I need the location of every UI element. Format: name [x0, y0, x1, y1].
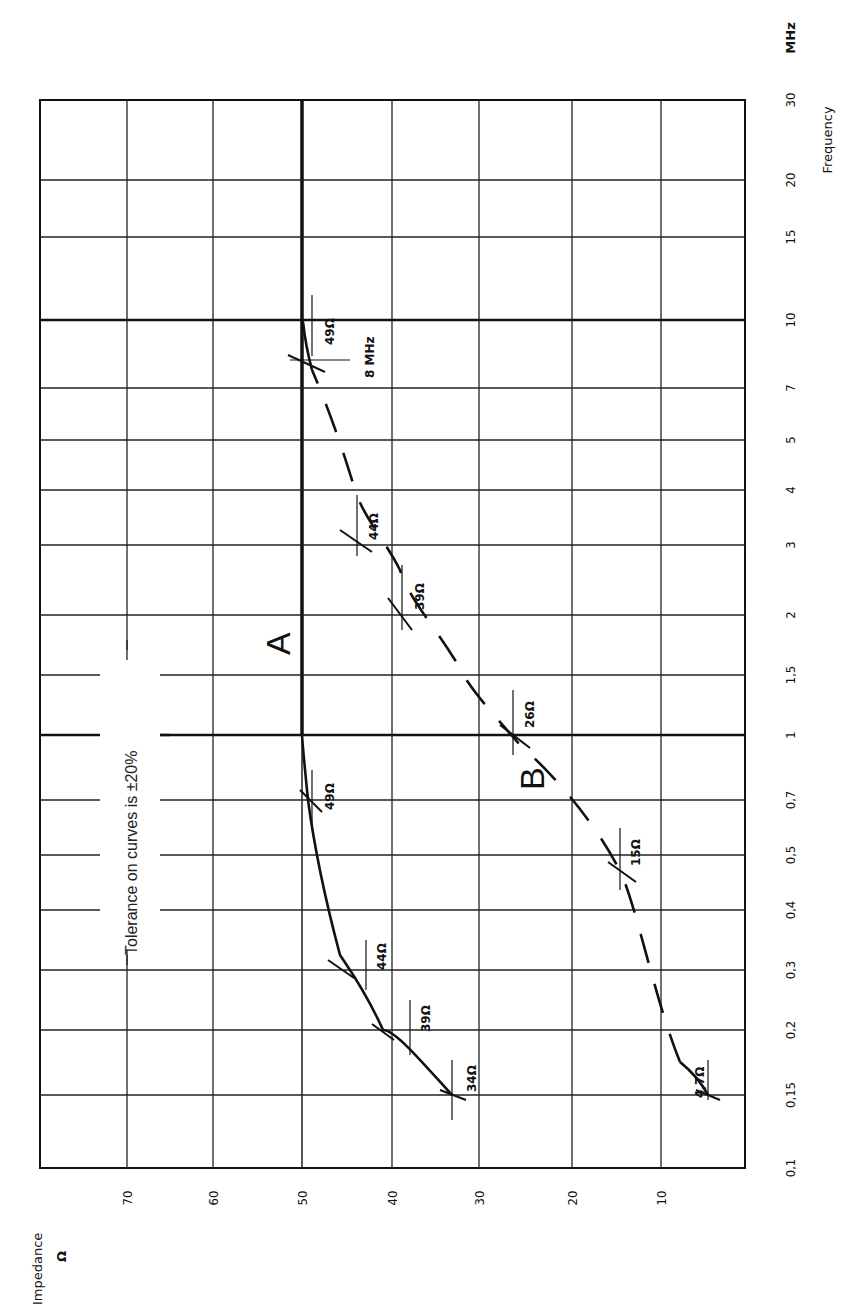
svg-text:10: 10 [783, 313, 798, 328]
svg-text:20: 20 [565, 1191, 580, 1206]
svg-text:15: 15 [783, 230, 798, 245]
label-b-47: 4,7Ω [693, 1067, 707, 1098]
label-a-39: 39Ω [419, 1005, 433, 1032]
svg-text:1: 1 [783, 731, 798, 738]
impedance-tick-labels: 70 60 50 40 30 20 10 [120, 1191, 669, 1206]
frequency-axis-title: Frequency [820, 106, 835, 173]
svg-text:60: 60 [206, 1191, 221, 1206]
impedance-axis-title: Impedance [30, 1233, 45, 1305]
impedance-axis-unit: Ω [54, 1251, 69, 1262]
impedance-gridlines [127, 100, 661, 1168]
frequency-tick-labels: 0,1 0,15 0,2 0,3 0,4 0,5 0,7 1 1,5 2 3 4… [783, 93, 798, 1178]
svg-text:30: 30 [472, 1191, 487, 1206]
svg-text:5: 5 [783, 436, 798, 443]
label-b-49: 49Ω [323, 318, 337, 345]
label-bars [290, 295, 708, 1120]
svg-text:4: 4 [783, 486, 798, 493]
tolerance-note: Tolerance on curves is ±20% [123, 751, 140, 955]
svg-text:3: 3 [783, 541, 798, 548]
frequency-axis-unit: MHz [783, 22, 798, 53]
label-a-49: 49Ω [323, 783, 337, 810]
svg-text:0,7: 0,7 [783, 791, 798, 810]
label-b-26: 26Ω [523, 701, 537, 728]
label-b-15: 15Ω [629, 839, 643, 866]
svg-text:0,2: 0,2 [783, 1021, 798, 1040]
svg-text:0,5: 0,5 [783, 846, 798, 865]
svg-text:70: 70 [120, 1191, 135, 1206]
svg-text:1,5: 1,5 [783, 666, 798, 685]
svg-text:0,4: 0,4 [783, 901, 798, 920]
svg-text:2: 2 [783, 611, 798, 618]
svg-text:20: 20 [783, 173, 798, 188]
label-8mhz: 8 MHz [363, 336, 377, 378]
svg-text:7: 7 [783, 384, 798, 391]
svg-text:0,3: 0,3 [783, 961, 798, 980]
curve-label-b: B [513, 767, 551, 790]
svg-text:50: 50 [295, 1191, 310, 1206]
label-b-44: 44Ω [367, 513, 381, 540]
svg-text:0,15: 0,15 [783, 1082, 798, 1108]
label-a-44: 44Ω [375, 943, 389, 970]
svg-text:0,1: 0,1 [783, 1159, 798, 1178]
svg-text:30: 30 [783, 93, 798, 108]
svg-text:10: 10 [654, 1191, 669, 1206]
svg-text:40: 40 [385, 1191, 400, 1206]
curve-label-a: A [259, 632, 297, 655]
label-a-34: 34Ω [465, 1065, 479, 1092]
impedance-frequency-chart: 34Ω 39Ω 44Ω 49Ω 4,7Ω 15Ω 26Ω 39Ω 44Ω 49Ω… [0, 0, 853, 1309]
label-b-39: 39Ω [413, 583, 427, 610]
curve-b-dashed [312, 370, 680, 1062]
